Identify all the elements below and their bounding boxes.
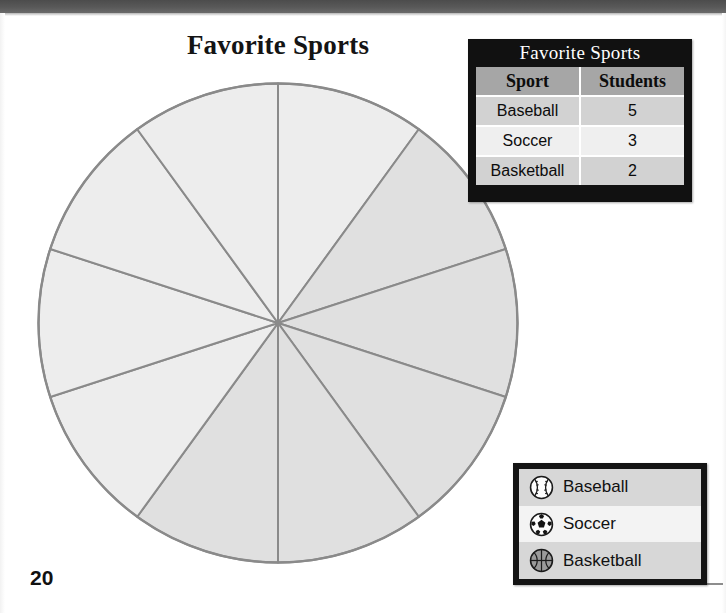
cell-students: 3 bbox=[580, 126, 684, 156]
legend-item-soccer: Soccer bbox=[519, 506, 701, 543]
legend-label: Baseball bbox=[563, 477, 628, 497]
chart-legend-inner: Baseball Soccer bbox=[519, 469, 701, 579]
legend-item-baseball: Baseball bbox=[519, 469, 701, 506]
baseball-icon bbox=[529, 475, 554, 500]
table-row: Soccer 3 bbox=[476, 126, 684, 156]
pie-chart-svg bbox=[36, 81, 520, 565]
legend-item-basketball: Basketball bbox=[519, 542, 701, 579]
pie-chart bbox=[36, 81, 520, 565]
page-top-band bbox=[0, 0, 726, 13]
legend-label: Soccer bbox=[563, 514, 616, 534]
data-table-grid: Sport Students Baseball 5 Soccer 3 Baske… bbox=[476, 67, 684, 185]
cell-sport: Soccer bbox=[476, 126, 580, 156]
cell-students: 5 bbox=[580, 96, 684, 126]
page-right-edge bbox=[722, 13, 726, 613]
table-row: Baseball 5 bbox=[476, 96, 684, 126]
chart-legend: Baseball Soccer bbox=[513, 463, 707, 585]
table-header-row: Sport Students bbox=[476, 67, 684, 96]
soccer-ball-icon bbox=[529, 512, 554, 537]
cell-sport: Basketball bbox=[476, 156, 580, 185]
data-table-title: Favorite Sports bbox=[476, 39, 684, 67]
page-number: 20 bbox=[30, 566, 53, 590]
basketball-icon bbox=[529, 548, 554, 573]
page-canvas: Favorite Sports Favorite Sports Sport St… bbox=[0, 0, 726, 613]
cell-students: 2 bbox=[580, 156, 684, 185]
column-header-students: Students bbox=[580, 67, 684, 96]
chart-title: Favorite Sports bbox=[160, 30, 396, 61]
column-header-sport: Sport bbox=[476, 67, 580, 96]
page-left-edge bbox=[0, 13, 5, 613]
data-table: Favorite Sports Sport Students Baseball … bbox=[468, 39, 692, 202]
legend-label: Basketball bbox=[563, 551, 641, 571]
table-row: Basketball 2 bbox=[476, 156, 684, 185]
cell-sport: Baseball bbox=[476, 96, 580, 126]
page-top-band-shadow bbox=[0, 13, 726, 16]
